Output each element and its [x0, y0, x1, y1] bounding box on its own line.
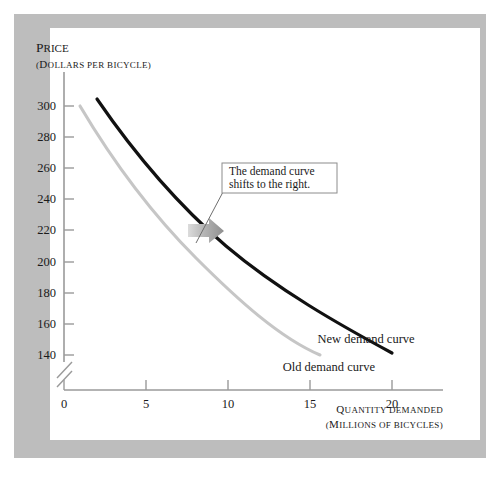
- x-tick-label: 15: [304, 397, 317, 411]
- y-tick-marks: [64, 106, 74, 355]
- y-tick-label: 180: [37, 286, 56, 300]
- y-tick-label: 240: [37, 192, 56, 206]
- y-tick-label: 300: [37, 99, 56, 113]
- y-axis-title: PRICE: [36, 40, 69, 55]
- y-tick-label: 200: [37, 255, 56, 269]
- x-tick-label: 0: [61, 397, 67, 411]
- x-axis-title: QUANTITY DEMANDED: [336, 403, 443, 415]
- y-tick-label: 220: [37, 223, 56, 237]
- x-tick-label: 10: [222, 397, 235, 411]
- y-tick-label: 280: [37, 130, 56, 144]
- x-tick-marks: [64, 380, 392, 390]
- new-demand-curve: [97, 99, 392, 353]
- x-tick-label: 5: [143, 397, 149, 411]
- callout-line-2: shifts to the right.: [229, 178, 310, 191]
- callout-line-1: The demand curve: [229, 165, 315, 177]
- y-tick-label: 160: [37, 317, 56, 331]
- y-tick-label: 140: [37, 348, 56, 362]
- demand-curve-chart: PRICE (DOLLARS PER BICYCLE) 300 280 260 …: [0, 0, 501, 477]
- x-axis-subtitle: (MILLIONS OF BICYCLES): [326, 418, 443, 430]
- old-demand-curve-label: Old demand curve: [283, 360, 376, 374]
- y-axis-subtitle: (DOLLARS PER BICYCLE): [36, 58, 151, 70]
- y-tick-label: 260: [37, 161, 56, 175]
- new-demand-curve-label: New demand curve: [317, 332, 415, 346]
- y-tick-labels: 300 280 260 240 220 200 180 160 140: [37, 99, 56, 362]
